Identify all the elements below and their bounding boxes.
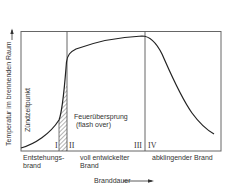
phase-4-label-line1: abklingender Brand [152,154,213,162]
plot-frame [21,32,221,152]
temperature-curve [21,36,214,148]
x-axis-label: Branddauer [94,177,131,185]
phase-numeral-4: IV [148,142,156,150]
flashover-label-line1: Feuerübersprung [74,113,128,121]
phase-numeral-1: I [55,142,58,150]
phase-2-label-line2: Brand [80,162,99,170]
y-axis-arrow-icon [10,29,13,35]
phase-1-label-line1: Entstehungs- [23,154,64,162]
y-axis-label: Temperatur im brennenden Raum [5,41,12,146]
phase-numeral-2: II [69,142,74,150]
fire-development-diagram: Temperatur im brennenden Raum Zündzeitpu… [0,0,234,187]
flashover-label-line2: (flash over) [76,121,111,129]
ignition-point-label: Zündzeitpunkt [24,88,31,132]
phase-numeral-3: III [134,142,142,150]
phase-2-label-line1: voll entwickelter [80,154,129,162]
x-axis-arrow-icon [148,179,154,182]
phase-1-label-line2: brand [23,162,41,170]
